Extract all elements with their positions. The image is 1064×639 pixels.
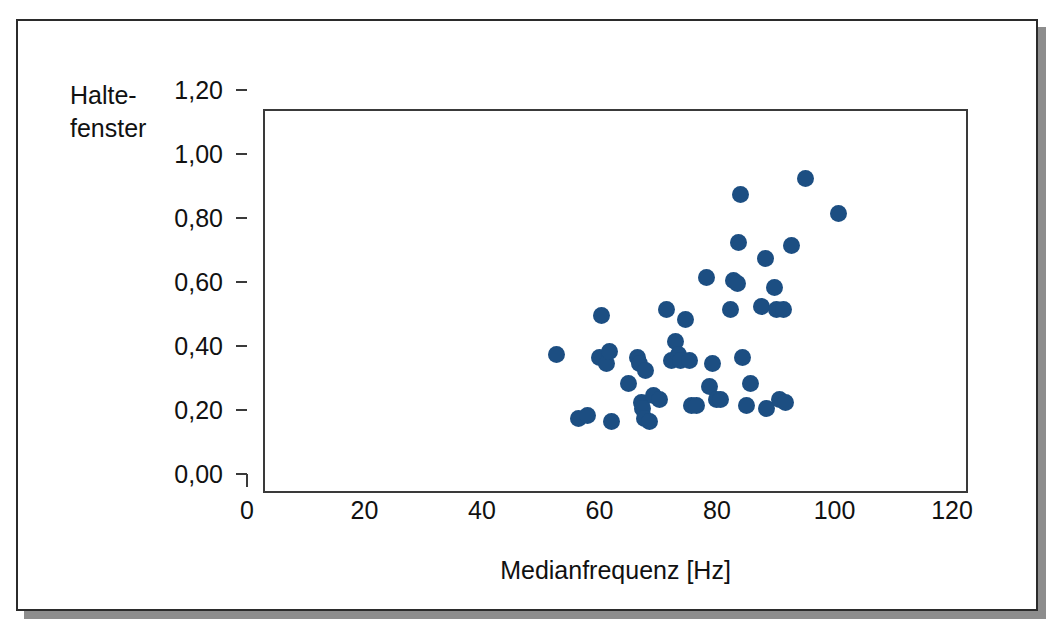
scatter-point bbox=[734, 349, 751, 366]
figure-panel: Halte- fenster 0,000,200,400,600,801,001… bbox=[16, 19, 1038, 611]
scatter-point bbox=[637, 362, 654, 379]
x-tick-label: 0 bbox=[240, 496, 254, 525]
y-tick-label: 0,20 bbox=[95, 396, 223, 425]
x-tick-label: 80 bbox=[703, 496, 731, 525]
x-tick-mark bbox=[246, 474, 248, 487]
scatter-point bbox=[704, 355, 721, 372]
scatter-point bbox=[579, 407, 596, 424]
scatter-point bbox=[712, 391, 729, 408]
plot-area bbox=[263, 109, 968, 493]
scatter-point bbox=[688, 397, 705, 414]
y-tick-mark bbox=[236, 345, 247, 347]
y-tick-label: 0,60 bbox=[95, 268, 223, 297]
scatter-point bbox=[548, 346, 565, 363]
scatter-point bbox=[730, 234, 747, 251]
scatter-point bbox=[603, 413, 620, 430]
scatter-point bbox=[766, 279, 783, 296]
y-tick-label: 0,40 bbox=[95, 332, 223, 361]
y-tick-mark bbox=[236, 153, 247, 155]
x-tick-label: 100 bbox=[814, 496, 856, 525]
scatter-point bbox=[783, 237, 800, 254]
x-tick-label: 60 bbox=[586, 496, 614, 525]
scatter-point bbox=[681, 352, 698, 369]
scatter-point bbox=[775, 301, 792, 318]
scatter-point bbox=[651, 391, 668, 408]
y-tick-mark bbox=[236, 217, 247, 219]
y-tick-mark bbox=[236, 89, 247, 91]
scatter-point bbox=[742, 375, 759, 392]
y-tick-mark bbox=[236, 281, 247, 283]
scatter-point bbox=[698, 269, 715, 286]
x-tick-label: 20 bbox=[351, 496, 379, 525]
scatter-point bbox=[729, 275, 746, 292]
y-tick-label: 1,20 bbox=[95, 76, 223, 105]
x-axis-title: Medianfrequenz [Hz] bbox=[263, 556, 968, 585]
scatter-point bbox=[797, 170, 814, 187]
scatter-point bbox=[738, 397, 755, 414]
y-tick-label: 0,00 bbox=[95, 460, 223, 489]
scatter-point bbox=[777, 394, 794, 411]
scatter-point bbox=[593, 307, 610, 324]
y-tick-label: 0,80 bbox=[95, 204, 223, 233]
x-tick-label: 120 bbox=[931, 496, 973, 525]
scatter-point bbox=[732, 186, 749, 203]
y-tick-label: 1,00 bbox=[95, 140, 223, 169]
scatter-point bbox=[722, 301, 739, 318]
scatter-point bbox=[757, 250, 774, 267]
x-tick-label: 40 bbox=[468, 496, 496, 525]
scatter-point bbox=[641, 413, 658, 430]
figure-root: Halte- fenster 0,000,200,400,600,801,001… bbox=[0, 0, 1064, 639]
scatter-point bbox=[677, 311, 694, 328]
scatter-point bbox=[620, 375, 637, 392]
scatter-point bbox=[830, 205, 847, 222]
y-tick-mark bbox=[236, 409, 247, 411]
scatter-point bbox=[601, 343, 618, 360]
scatter-point bbox=[658, 301, 675, 318]
